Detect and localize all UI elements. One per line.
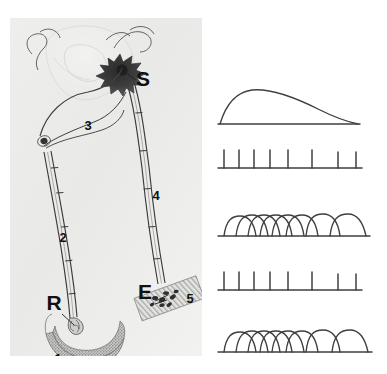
spike-group-efferent [224,272,356,290]
traces-panel [210,0,387,374]
label-2: 2 [59,230,66,245]
label-5: 5 [186,291,193,306]
label-E: E [138,280,152,303]
endplate-wave-group [224,330,368,352]
trace-receptor-generator-potential [218,90,360,124]
label-S: S [136,67,150,90]
spike-group-afferent [224,150,356,168]
label-R: R [46,291,61,314]
epsp-wave-group [224,214,366,236]
label-4: 4 [152,188,160,203]
trace-efferent-spike-train [218,272,362,290]
label-3: 3 [84,118,91,133]
anatomy-panel: R S E 1 2 3 4 5 [10,18,202,356]
label-1: 1 [54,351,61,356]
trace-afferent-spike-train [218,150,362,168]
trace-synaptic-summation [218,214,370,236]
figure-root: R S E 1 2 3 4 5 [0,0,387,374]
trace-endplate-summation [218,330,372,352]
generator-potential-curve [220,90,358,124]
